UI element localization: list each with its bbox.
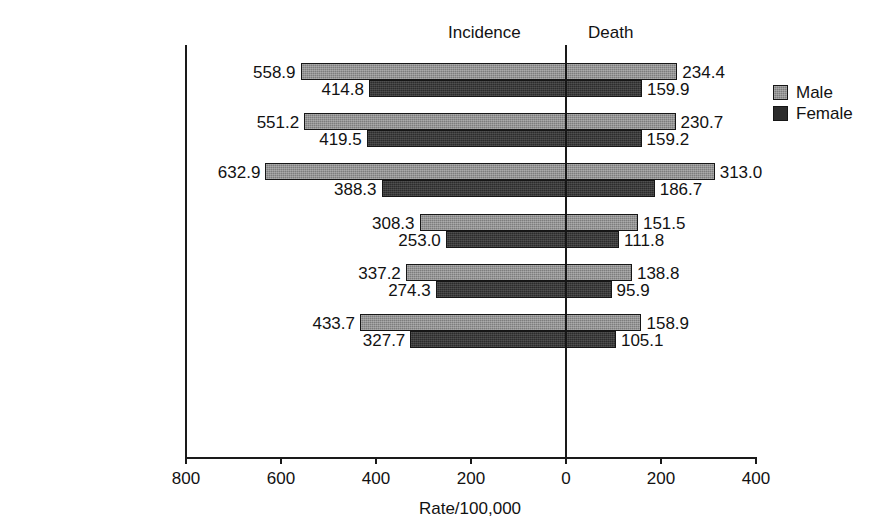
value-label-female-left: 327.7 [363,332,406,349]
plot-area: 558.9234.4414.8159.9551.2230.7419.5159.2… [0,0,876,532]
bar-male-right [566,113,676,130]
bar-male-left [406,264,566,281]
bar-female-right [566,180,655,197]
value-label-male-left: 337.2 [358,265,401,282]
bar-male-right [566,214,638,231]
legend-swatch-female-icon [773,106,788,121]
legend-label-female: Female [796,105,853,122]
value-label-male-right: 230.7 [681,114,724,131]
value-label-female-left: 274.3 [388,282,431,299]
value-label-male-left: 433.7 [312,315,355,332]
bar-male-left [304,113,566,130]
value-label-male-right: 158.9 [646,315,689,332]
bar-female-right [566,331,616,348]
value-label-female-right: 105.1 [621,332,664,349]
bar-male-left [265,163,566,180]
bar-female-left [436,281,566,298]
bar-female-right [566,231,619,248]
value-label-female-right: 95.9 [617,282,650,299]
value-label-male-right: 151.5 [643,215,686,232]
value-label-female-right: 159.2 [647,131,690,148]
bar-male-left [301,63,566,80]
legend-item-female: Female [773,105,853,122]
legend-swatch-male-icon [773,85,788,100]
value-label-female-right: 111.8 [624,232,664,249]
bar-female-right [566,130,642,147]
value-label-male-right: 138.8 [637,265,680,282]
value-label-male-left: 558.9 [253,64,296,81]
bar-male-left [420,214,566,231]
value-label-male-left: 632.9 [218,164,261,181]
bar-female-left [446,231,566,248]
value-label-female-right: 186.7 [660,181,703,198]
value-label-female-left: 414.8 [321,81,364,98]
bar-male-right [566,314,641,331]
value-label-female-right: 159.9 [647,81,690,98]
legend-label-male: Male [796,84,833,101]
value-label-male-left: 551.2 [257,114,300,131]
bar-female-left [382,180,566,197]
value-label-male-left: 308.3 [372,215,415,232]
bar-male-left [360,314,566,331]
bar-male-right [566,63,677,80]
bar-female-right [566,281,612,298]
bar-female-right [566,80,642,97]
chart-root: Incidence Death 8006004002000200400 Rate… [0,0,876,532]
value-label-female-left: 253.0 [398,232,441,249]
legend-item-male: Male [773,84,833,101]
bar-female-left [369,80,566,97]
bar-male-right [566,264,632,281]
bar-female-left [367,130,566,147]
value-label-male-right: 313.0 [720,164,763,181]
bar-female-left [410,331,566,348]
value-label-female-left: 388.3 [334,181,377,198]
value-label-female-left: 419.5 [319,131,362,148]
bar-male-right [566,163,715,180]
value-label-male-right: 234.4 [682,64,725,81]
